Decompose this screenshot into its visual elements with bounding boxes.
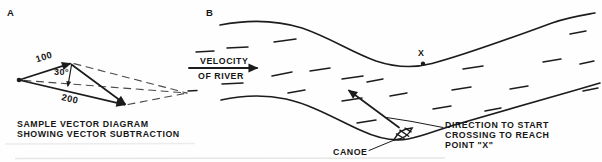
velocity-label-line2: OF RIVER [198, 71, 244, 81]
scan-streaks [5, 144, 445, 159]
panel-a-caption-line1: SAMPLE VECTOR DIAGRAM [17, 119, 149, 129]
point-x-dot [421, 62, 425, 66]
point-x-label: X [418, 48, 424, 58]
direction-leader-line [387, 118, 444, 128]
direction-label-line3: POINT "X" [445, 140, 493, 150]
canoe-icon [391, 124, 415, 144]
direction-label-line1: DIRECTION TO START [445, 120, 549, 130]
figure-canvas: A 100 200 30° SAMPLE VECTOR DIAGRAM SHOW… [0, 0, 602, 162]
panel-a-caption-line2: SHOWING VECTOR SUBTRACTION [17, 129, 180, 139]
angle-value: 30° [54, 67, 69, 77]
direction-label-line2: CROSSING TO REACH [445, 130, 550, 140]
vector-diagram [17, 64, 187, 105]
panel-a-label: A [7, 8, 14, 18]
velocity-label-line1: VELOCITY [200, 56, 248, 66]
canoe-label: CANOE [333, 147, 368, 157]
canoe-leader-line [369, 140, 396, 151]
river-flow-dashes [188, 31, 598, 123]
river-top-bank [220, 13, 595, 66]
panel-b-label: B [206, 8, 213, 18]
